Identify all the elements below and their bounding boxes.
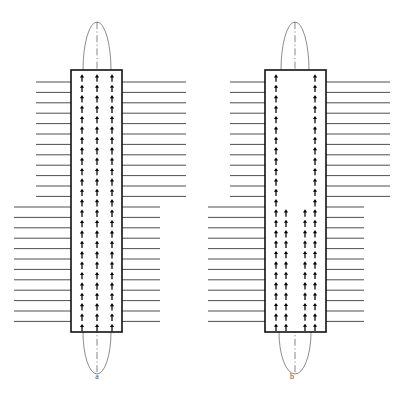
panel-b-label: b	[290, 372, 294, 381]
panel-b-group	[208, 22, 390, 374]
core-rectangle	[265, 70, 326, 332]
panel-a-group	[14, 22, 186, 374]
magnetization-diagram: a b	[0, 0, 394, 393]
panel-a-label: a	[95, 372, 99, 381]
figure-canvas: a b	[0, 0, 394, 393]
